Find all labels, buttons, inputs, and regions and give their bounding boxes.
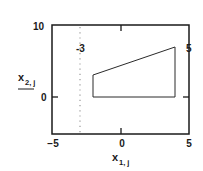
y-axis-label: x 2, j [18,71,35,89]
annotation-right-5: 5 [186,43,192,54]
chart-canvas: 10 0 −5 0 5 -3 5 x 2, j x 1, j [0,0,203,171]
x-axis-label: x 1, j [112,151,129,167]
region-polygon [93,47,175,97]
x-axis-label-subscript: 1, j [119,158,129,167]
y-axis-label-main: x [18,71,25,83]
y-tick-label-10: 10 [33,21,45,32]
x-tick-label-0: 0 [119,138,125,149]
plot-frame [52,25,189,134]
y-axis-label-subscript: 2, j [25,78,35,87]
x-axis-label-main: x [112,151,119,163]
annotation-neg3: -3 [76,43,85,54]
y-tick-label-0: 0 [41,92,47,103]
x-tick-label-neg5: −5 [47,138,59,149]
x-tick-label-5: 5 [186,138,192,149]
